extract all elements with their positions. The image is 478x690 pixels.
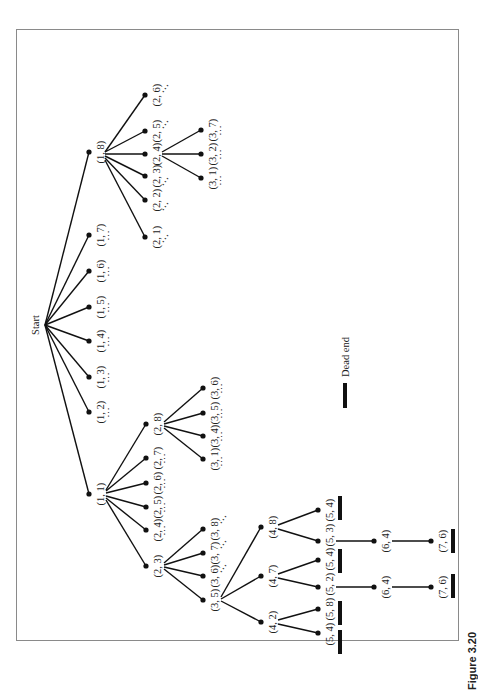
node-label: (2, 8) bbox=[152, 412, 164, 435]
dead-end-bar bbox=[338, 601, 342, 625]
legend-label: Dead end bbox=[340, 336, 351, 377]
node-label: (4, 7) bbox=[267, 564, 279, 587]
node-label: (1, 1) bbox=[95, 482, 107, 505]
node-label: (5, 4) bbox=[324, 622, 336, 645]
dead-end-bar bbox=[451, 574, 455, 598]
start-label: Start bbox=[30, 315, 41, 335]
node-label: (7, 6) bbox=[437, 529, 449, 552]
dead-end-markers bbox=[338, 383, 455, 654]
edges bbox=[45, 95, 431, 633]
tree-diagram: Start (1, 8) (1, 7) (1, 6) (1, 5) (1, 4)… bbox=[0, 0, 478, 690]
dead-end-bar bbox=[338, 630, 342, 654]
svg-text:⋯: ⋯ bbox=[103, 335, 115, 347]
svg-text:⋯: ⋯ bbox=[103, 265, 115, 277]
node-label: (7, 6) bbox=[437, 575, 449, 598]
svg-text:⋯: ⋯ bbox=[103, 301, 115, 313]
node-label: (3, 5) bbox=[209, 588, 221, 611]
node-label: (6, 4) bbox=[380, 529, 392, 552]
node-label: (5, 4) bbox=[324, 547, 336, 570]
svg-text:⋯: ⋯ bbox=[215, 124, 227, 136]
svg-text:⋯: ⋯ bbox=[159, 501, 171, 513]
svg-text:⋯: ⋯ bbox=[159, 477, 171, 489]
svg-text:⋯: ⋯ bbox=[159, 524, 171, 536]
node-label: (5, 2) bbox=[324, 572, 336, 595]
figure-container: Start (1, 8) (1, 7) (1, 6) (1, 5) (1, 4)… bbox=[0, 0, 478, 690]
node-label: (6, 4) bbox=[380, 575, 392, 598]
svg-text:⋯: ⋯ bbox=[159, 452, 171, 464]
node-label: (2, 4) bbox=[151, 142, 163, 165]
node-label: (4, 2) bbox=[267, 610, 279, 633]
dead-end-bar bbox=[451, 529, 455, 553]
node-label: (4, 8) bbox=[267, 515, 279, 538]
svg-text:⋯: ⋯ bbox=[103, 229, 115, 241]
svg-text:⋯: ⋯ bbox=[216, 455, 228, 467]
svg-text:⋯: ⋯ bbox=[103, 371, 115, 383]
node-label: (5, 3) bbox=[324, 523, 336, 546]
svg-text:⋯: ⋯ bbox=[216, 407, 228, 419]
dead-end-bar bbox=[338, 496, 342, 520]
node-label: (5, 4) bbox=[324, 498, 336, 521]
dead-end-bar bbox=[338, 549, 342, 573]
figure-border bbox=[17, 30, 459, 641]
figure-caption: Figure 3.20 bbox=[466, 632, 478, 690]
legend-dead-end-bar bbox=[343, 383, 347, 408]
node-label: (2, 3) bbox=[152, 554, 164, 577]
node-label: (5, 8) bbox=[324, 597, 336, 620]
node-labels: Start (1, 8) (1, 7) (1, 6) (1, 5) (1, 4)… bbox=[30, 83, 478, 690]
svg-text:⋯: ⋯ bbox=[216, 430, 228, 442]
svg-text:⋯: ⋯ bbox=[103, 406, 115, 418]
svg-text:⋯: ⋯ bbox=[215, 148, 227, 160]
svg-text:⋯: ⋯ bbox=[215, 174, 227, 186]
svg-text:⋯: ⋯ bbox=[216, 382, 228, 394]
node-label: (1, 8) bbox=[95, 140, 107, 163]
